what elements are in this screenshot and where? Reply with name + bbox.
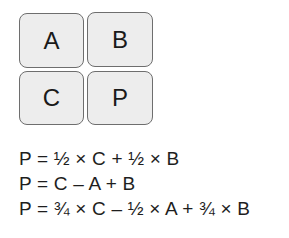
cell-b: B: [87, 12, 153, 67]
formula-list: P = ½ × C + ½ × B P = C – A + B P = ¾ × …: [19, 146, 250, 222]
cell-a-label: A: [43, 27, 59, 55]
cell-b-label: B: [112, 26, 128, 54]
cell-a: A: [19, 13, 84, 68]
formula-gradient: P = C – A + B: [19, 171, 250, 197]
formula-average: P = ½ × C + ½ × B: [19, 146, 250, 172]
cell-c: C: [19, 71, 84, 125]
formula-weighted: P = ¾ × C – ½ × A + ¾ × B: [19, 196, 250, 222]
cell-p-label: P: [112, 84, 128, 112]
cell-c-label: C: [43, 84, 60, 112]
cell-p: P: [87, 71, 153, 125]
